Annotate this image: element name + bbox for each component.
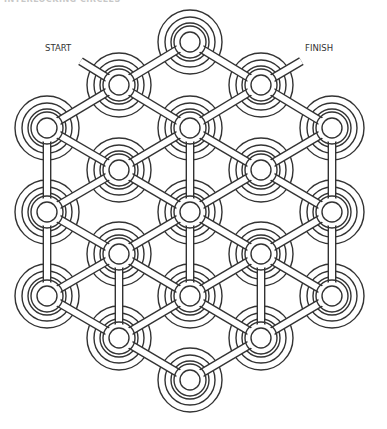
maze-node-center: [37, 202, 57, 222]
maze-node-center: [180, 286, 200, 306]
maze-node-center: [251, 160, 271, 180]
maze-node-center: [109, 328, 129, 348]
maze-node-center: [180, 118, 200, 138]
maze-node-center: [322, 202, 342, 222]
maze-node-center: [322, 118, 342, 138]
maze-node-center: [109, 160, 129, 180]
maze-node-center: [251, 244, 271, 264]
maze-node-center: [37, 118, 57, 138]
maze-node-center: [109, 75, 129, 95]
maze-node-center: [180, 370, 200, 390]
maze-node-center: [251, 75, 271, 95]
maze-node-center: [322, 286, 342, 306]
maze-node-center: [251, 328, 271, 348]
maze-node-center: [180, 202, 200, 222]
maze-node-center: [37, 286, 57, 306]
maze-node-center: [180, 32, 200, 52]
maze-node-center: [109, 244, 129, 264]
maze-board[interactable]: [0, 0, 387, 429]
